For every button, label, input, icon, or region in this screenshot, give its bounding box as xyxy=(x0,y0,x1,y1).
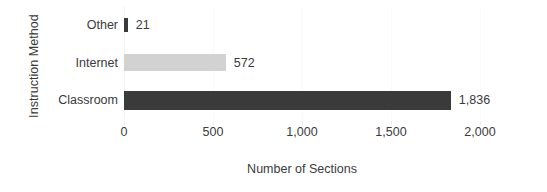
y-axis-tick-label: Internet xyxy=(34,57,118,70)
bar xyxy=(124,18,128,32)
bar xyxy=(124,54,226,71)
bar-chart: Instruction Method Other Internet Classr… xyxy=(0,0,547,192)
x-axis-tick-label: 500 xyxy=(203,126,224,139)
y-axis-tick-label: Other xyxy=(34,19,118,32)
bar-value-label: 1,836 xyxy=(459,94,490,107)
bar-value-label: 21 xyxy=(136,19,150,32)
x-axis-tick-label: 1,500 xyxy=(375,126,406,139)
x-axis-tick-labels: 05001,0001,5002,000 xyxy=(124,121,480,141)
plot-area xyxy=(124,6,480,119)
x-axis-tick-label: 0 xyxy=(121,126,128,139)
y-axis-tick-labels: Other Internet Classroom xyxy=(34,0,118,125)
x-axis-tick-label: 2,000 xyxy=(464,126,495,139)
bar-value-label: 572 xyxy=(234,57,255,70)
bar xyxy=(124,91,451,110)
y-axis-tick-label: Classroom xyxy=(34,94,118,107)
x-axis-title: Number of Sections xyxy=(124,162,480,176)
x-axis-tick-label: 1,000 xyxy=(286,126,317,139)
